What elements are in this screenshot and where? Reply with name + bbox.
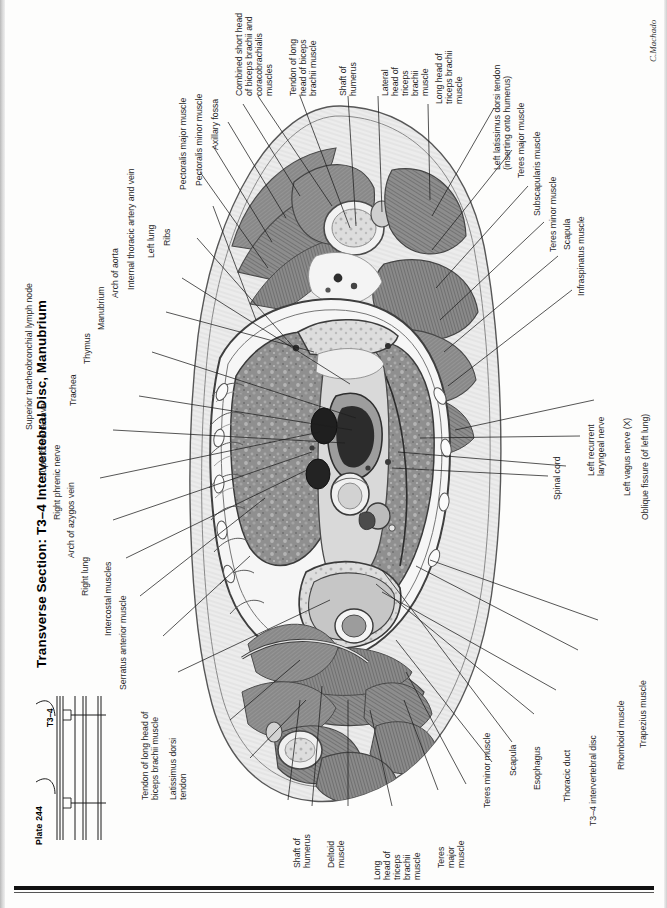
label-pectoralis-minor-muscle: Pectoralis minor muscle	[194, 94, 204, 186]
label-arch-of-aorta: Arch of aorta	[110, 248, 120, 298]
label-teres-major-muscle-right: Teres major muscle	[516, 103, 526, 178]
label-right-phrenic-nerve: Right phrenic nerve	[52, 445, 62, 520]
label-long-head-of-triceps-brachii-muscle-bottom: Longhead oftricepsbrachiimuscle	[372, 794, 422, 880]
footer-rule-thin	[14, 892, 654, 893]
label-axillary-fossa: Axillary fossa	[210, 99, 220, 150]
label-tendon-of-long-head-of-biceps-brachii-muscle-top: Tendon of longhead of bicepsbrachii musc…	[288, 14, 318, 96]
label-subscapularis-muscle: Subscapularis muscle	[532, 132, 542, 217]
label-shaft-of-humerus-bottom: Shaft ofhumerus	[292, 806, 312, 868]
label-t3-4-intervertebral-disc: T3–4 intervertebral disc	[588, 735, 598, 826]
label-esophagus: Esophagus	[532, 747, 542, 790]
label-left-recurrent-laryngeal-nerve: Left recurrentlaryngeal nerve	[586, 382, 606, 476]
label-long-head-of-triceps-brachii-muscle-top: Long head oftriceps brachiimuscle	[434, 28, 464, 104]
label-pectoralis-major-muscle: Pectoralis major muscle	[178, 98, 188, 190]
page-title: Transverse Section: T3–4 Intervertebral …	[34, 300, 49, 668]
label-latissimus-dorsi-tendon: Latissimus dorsitendon	[168, 690, 188, 800]
label-left-lung: Left lung	[146, 225, 156, 258]
label-superior-vena-cava: Superior vena cava	[38, 403, 48, 478]
label-arch-of-azygos-vein: Arch of azygos vein	[66, 482, 76, 558]
label-thoracic-duct: Thoracic duct	[562, 750, 572, 802]
label-teres-minor-muscle-bottom: Teres minor muscle	[482, 733, 492, 808]
footer-rule	[14, 886, 654, 890]
label-internal-thoracic-artery-and-vein: Internal thoracic artery and vein	[126, 168, 136, 290]
label-ribs: Ribs	[162, 229, 172, 246]
label-deltoid-muscle: Deltoidmuscle	[326, 806, 346, 868]
label-left-vagus-nerve: Left vagus nerve (X)	[622, 418, 632, 496]
label-rhomboid-muscle: Rhomboid muscle	[616, 700, 626, 770]
artist-signature: C.Machado	[648, 20, 658, 62]
transverse-section-illustration	[178, 96, 508, 810]
label-intercostal-muscles: Intercostal muscles	[103, 562, 113, 636]
label-serratus-anterior-muscle: Serratus anterior muscle	[118, 595, 128, 690]
orientation-key-vertebral-column	[28, 690, 106, 850]
label-superior-tracheobronchial-lymph-node: Superior tracheobronchial lymph node	[24, 283, 34, 430]
label-lateral-head-of-triceps-brachii-muscle: Lateralhead oftricepsbrachiimuscle	[380, 14, 430, 96]
label-combined-short-head-of-biceps-brachii-and-coracobrachialis-muscles: Combined short headof biceps brachii and…	[234, 4, 274, 96]
label-left-latissimus-dorsi-tendon: Left latissimus dorsi tendon(inserting o…	[492, 20, 512, 170]
scan-edge-left	[0, 0, 5, 908]
label-thymus: Thymus	[82, 333, 92, 364]
label-oblique-fissure-of-left-lung: Oblique fissure (of left lung)	[640, 414, 650, 520]
label-spinal-cord: Spinal cord	[552, 457, 562, 500]
label-teres-major-muscle-bottom: Teresmajormuscle	[436, 798, 466, 868]
label-scapula-right: Scapula	[562, 219, 572, 250]
label-shaft-of-humerus-top: Shaft ofhumerus	[338, 38, 358, 96]
label-teres-minor-muscle-right: Teres minor muscle	[548, 177, 558, 252]
label-manubrium: Manubrium	[96, 287, 106, 330]
label-right-lung: Right lung	[80, 557, 90, 596]
label-scapula-bottom: Scapula	[508, 745, 518, 776]
label-infraspinatus-muscle: Infraspinatus muscle	[576, 216, 586, 296]
label-trapezius-muscle: Trapezius muscle	[638, 680, 648, 748]
label-trachea: Trachea	[68, 374, 78, 406]
label-tendon-of-long-head-of-biceps-brachii-muscle-left: Tendon of long head ofbiceps brachii mus…	[140, 690, 160, 800]
